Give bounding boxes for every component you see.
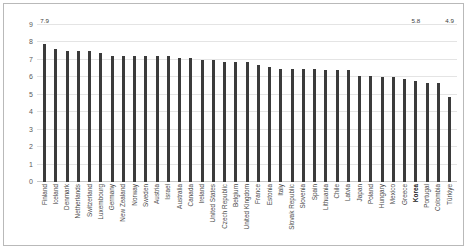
- x-label-slot: Iceland: [50, 184, 61, 246]
- bar-slot: [253, 25, 264, 182]
- bar: 7.9: [43, 44, 46, 182]
- bar: [347, 70, 350, 182]
- bar-slot: 4.9: [444, 25, 455, 182]
- bar-slot: [399, 25, 410, 182]
- bar-slot: [118, 25, 129, 182]
- bar: [144, 56, 147, 182]
- bar: [201, 60, 204, 182]
- x-axis-tick-label: Italy: [278, 184, 284, 196]
- bar: [66, 51, 69, 182]
- x-axis-tick-label: Germany: [109, 184, 115, 210]
- x-label-slot: United States: [208, 184, 219, 246]
- x-axis-tick-label: Iceland: [53, 184, 59, 205]
- x-label-slot: Switzerland: [84, 184, 95, 246]
- bar: [369, 76, 372, 182]
- bar-slot: [354, 25, 365, 182]
- x-label-slot: Australia: [174, 184, 185, 246]
- x-axis-tick-label: Belgium: [233, 184, 239, 207]
- x-label-slot: Denmark: [62, 184, 73, 246]
- x-axis-tick-label: Estonia: [266, 184, 272, 205]
- bar-slot: [84, 25, 95, 182]
- y-axis-tick-label: 4: [29, 108, 33, 115]
- chart-outer-frame: 0123456789 7.95.84.9 FinlandIcelandDenma…: [3, 3, 464, 246]
- bar-value-label: 5.8: [412, 18, 421, 24]
- x-axis-tick-label: Norway: [131, 184, 137, 206]
- bar: [257, 65, 260, 182]
- x-axis-tick-label: Israel: [165, 184, 171, 200]
- y-axis-tick-label: 5: [29, 90, 33, 97]
- x-label-slot: Belgium: [230, 184, 241, 246]
- y-axis-tick-label: 3: [29, 125, 33, 132]
- x-label-slot: France: [253, 184, 264, 246]
- bar: [133, 56, 136, 182]
- bar: [167, 56, 170, 182]
- x-axis-tick-label: Canada: [188, 184, 194, 206]
- x-label-slot: Finland: [39, 184, 50, 246]
- bar-slot: [219, 25, 230, 182]
- bar: [178, 58, 181, 182]
- plot-region: 0123456789 7.95.84.9: [37, 25, 457, 182]
- bar-slot: [152, 25, 163, 182]
- bar: [279, 69, 282, 182]
- bar-slot: [129, 25, 140, 182]
- x-axis-tick-label: Latvia: [345, 184, 351, 201]
- x-axis-tick-label: Colombia: [435, 184, 441, 211]
- x-label-slot: Hungary: [377, 184, 388, 246]
- x-label-slot: Norway: [129, 184, 140, 246]
- bar: [77, 51, 80, 182]
- x-axis-tick-label: France: [255, 184, 261, 204]
- x-axis-tick-label: Slovenia: [300, 184, 306, 209]
- x-axis-tick-label: Korea: [413, 184, 419, 202]
- x-label-slot: Korea: [410, 184, 421, 246]
- x-axis-tick-label: Slovak Republic: [289, 184, 295, 230]
- bar: 4.9: [448, 97, 451, 182]
- x-label-slot: Sweden: [140, 184, 151, 246]
- bar: [358, 76, 361, 182]
- x-label-slot: Austria: [152, 184, 163, 246]
- x-label-slot: Luxembourg: [95, 184, 106, 246]
- x-label-slot: Greece: [399, 184, 410, 246]
- bar-slot: [73, 25, 84, 182]
- bar-slot: [107, 25, 118, 182]
- bar-slot: [208, 25, 219, 182]
- bar: [234, 62, 237, 182]
- x-axis-tick-label: New Zealand: [120, 184, 126, 222]
- bar-slot: [62, 25, 73, 182]
- bar: [54, 49, 57, 182]
- bar-slot: [230, 25, 241, 182]
- x-axis-tick-label: Portugal: [424, 184, 430, 208]
- bar-slot: [332, 25, 343, 182]
- bar-slot: [298, 25, 309, 182]
- bar-slot: [343, 25, 354, 182]
- x-axis-tick-label: Ireland: [199, 184, 205, 204]
- bar: [291, 69, 294, 182]
- x-label-slot: Türkiye: [444, 184, 455, 246]
- bar-slot: [95, 25, 106, 182]
- x-axis-tick-label: Poland: [368, 184, 374, 204]
- x-axis-tick-label: Denmark: [64, 184, 70, 210]
- x-label-slot: Israel: [163, 184, 174, 246]
- bar: [246, 62, 249, 182]
- bar-slot: [275, 25, 286, 182]
- x-axis-tick-label: Australia: [176, 184, 182, 209]
- bar: [336, 70, 339, 182]
- y-axis-tick-label: 9: [29, 21, 33, 28]
- x-label-slot: Latvia: [343, 184, 354, 246]
- bar: [302, 69, 305, 182]
- bar-slot: [50, 25, 61, 182]
- x-label-slot: Spain: [309, 184, 320, 246]
- chart-area: 0123456789 7.95.84.9 FinlandIcelandDenma…: [13, 13, 462, 244]
- x-axis-tick-label: Switzerland: [86, 184, 92, 217]
- bar: [99, 53, 102, 182]
- x-axis-tick-label: Türkiye: [446, 184, 452, 205]
- x-axis-labels: FinlandIcelandDenmarkNetherlandsSwitzerl…: [37, 184, 457, 246]
- x-axis-tick-label: Japan: [356, 184, 362, 201]
- x-label-slot: Japan: [354, 184, 365, 246]
- bar-slot: [388, 25, 399, 182]
- bar-slot: [422, 25, 433, 182]
- bar: [381, 77, 384, 182]
- bar-slot: [197, 25, 208, 182]
- x-axis-tick-label: Spain: [311, 184, 317, 200]
- x-label-slot: Poland: [365, 184, 376, 246]
- x-axis-tick-label: Finland: [41, 184, 47, 205]
